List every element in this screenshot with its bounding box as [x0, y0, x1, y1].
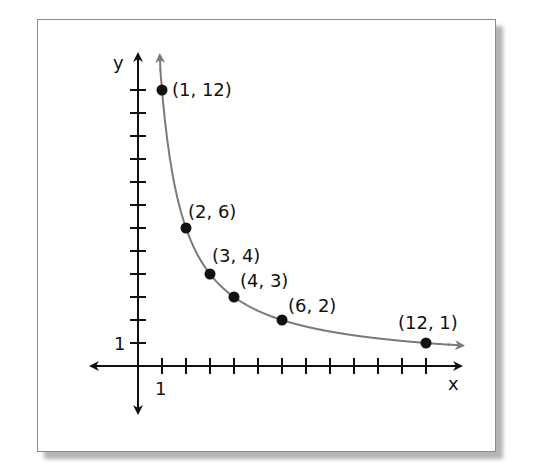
point-label: (1, 12) — [172, 79, 232, 100]
x-tick-label-1: 1 — [155, 378, 166, 399]
data-points: (1, 12)(2, 6)(3, 4)(4, 3)(6, 2)(12, 1) — [157, 79, 458, 349]
point-label: (3, 4) — [212, 245, 260, 266]
data-point — [229, 292, 240, 303]
data-point — [205, 269, 216, 280]
curve-arrow-right — [448, 345, 463, 346]
y-axis — [130, 54, 146, 413]
point-label: (4, 3) — [240, 270, 288, 291]
x-axis-label: x — [448, 373, 459, 394]
data-point — [421, 338, 432, 349]
y-tick-label-1: 1 — [114, 333, 125, 354]
data-point — [181, 223, 192, 234]
hyperbola-plot: y x 1 1 (1, 12)(2, 6)(3, 4)(4, 3)(6, 2)(… — [0, 0, 547, 473]
data-point — [157, 85, 168, 96]
curve-arrow-up — [160, 55, 161, 71]
point-label: (2, 6) — [188, 201, 236, 222]
x-axis — [91, 358, 461, 374]
point-label: (12, 1) — [398, 312, 458, 333]
data-point — [277, 315, 288, 326]
y-axis-label: y — [113, 52, 124, 73]
point-label: (6, 2) — [288, 295, 336, 316]
